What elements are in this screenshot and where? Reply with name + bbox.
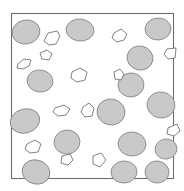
figure-container — [0, 0, 184, 191]
microstructure-diagram — [0, 0, 184, 191]
